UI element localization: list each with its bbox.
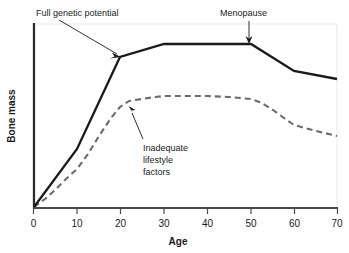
x-tick-label-0: 0 (31, 218, 37, 229)
x-tick-label-30: 30 (158, 218, 170, 229)
x-tick-label-10: 10 (71, 218, 83, 229)
annotation-label-inadequate-line-2: lifestyle (143, 155, 173, 165)
x-tick-label-60: 60 (289, 218, 301, 229)
x-tick-label-20: 20 (115, 218, 127, 229)
annotation-label-inadequate-line-1: Inadequate (143, 143, 188, 153)
bone-mass-vs-age-chart: 0 10 20 30 40 50 60 70 Age Bone mass Ful… (0, 0, 349, 253)
annotation-label-menopause: Menopause (220, 8, 267, 18)
x-axis-title: Age (169, 236, 188, 247)
x-tick-label-40: 40 (202, 218, 214, 229)
y-axis-title: Bone mass (6, 89, 17, 143)
annotation-label-full-genetic-potential: Full genetic potential (36, 8, 119, 18)
plot-area (33, 24, 337, 208)
x-tick-label-50: 50 (245, 218, 257, 229)
chart-canvas: 0 10 20 30 40 50 60 70 Age Bone mass Ful… (0, 0, 349, 253)
annotation-label-inadequate-line-3: factors (143, 167, 171, 177)
x-tick-label-70: 70 (331, 218, 343, 229)
